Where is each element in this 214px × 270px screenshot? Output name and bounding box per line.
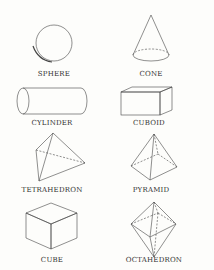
sphere-shape	[33, 25, 72, 62]
cone-shape	[133, 15, 169, 61]
tetrahedron-shape	[36, 133, 85, 181]
cylinder-label: CYLINDER	[2, 119, 102, 127]
octahedron-label: OCTAHEDRON	[104, 256, 204, 264]
cuboid-label: CUBOID	[99, 119, 199, 127]
cube-label: CUBE	[2, 256, 102, 264]
cube-shape	[26, 203, 77, 249]
cylinder-shape	[17, 88, 87, 114]
octahedron-shape	[131, 202, 176, 257]
cone-label: CONE	[101, 70, 201, 78]
tetrahedron-label: TETRAHEDRON	[2, 186, 102, 194]
cuboid-shape	[121, 87, 172, 115]
sphere-label: SPHERE	[4, 70, 104, 78]
solids-diagram	[0, 0, 214, 270]
pyramid-label: PYRAMID	[101, 186, 201, 194]
pyramid-shape	[131, 134, 177, 180]
